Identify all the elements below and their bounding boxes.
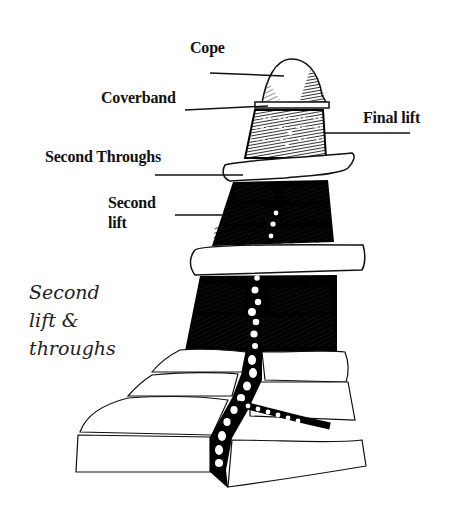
second-lift-courses xyxy=(212,180,334,246)
first-lift-courses xyxy=(185,275,337,355)
cope-stone xyxy=(262,59,326,103)
label-coverband: Coverband xyxy=(101,90,176,106)
label-second-lift: Second lift xyxy=(108,193,156,233)
label-final-lift: Final lift xyxy=(363,110,420,126)
label-second-throughs: Second Throughs xyxy=(45,149,161,165)
first-throughs-stone xyxy=(190,245,364,275)
caption-second-lift-and-throughs: Second lift & throughs xyxy=(29,278,116,362)
wall-illustration xyxy=(0,0,463,518)
dry-stone-wall-diagram: Cope Coverband Final lift Second Through… xyxy=(0,0,463,518)
coverband-stone xyxy=(255,102,329,108)
label-cope: Cope xyxy=(190,40,225,56)
final-lift-courses xyxy=(245,110,326,158)
